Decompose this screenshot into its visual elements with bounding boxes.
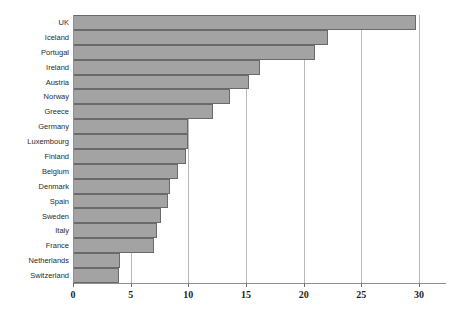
category-label-portugal: Portugal: [0, 48, 69, 57]
category-label-spain: Spain: [0, 197, 69, 206]
category-label-uk: UK: [0, 18, 69, 27]
plot-area: [73, 15, 419, 283]
bar-austria: [73, 75, 249, 90]
category-label-belgium: Belgium: [0, 167, 69, 176]
bar-france: [73, 238, 154, 253]
bar-row: [73, 15, 419, 30]
bar-row: [73, 179, 419, 194]
bar-row: [73, 119, 419, 134]
bar-row: [73, 75, 419, 90]
category-label-germany: Germany: [0, 122, 69, 131]
bar-norway: [73, 89, 230, 104]
x-tick-label-30: 30: [414, 289, 424, 300]
bar-row: [73, 208, 419, 223]
category-axis-labels: UKIcelandPortugalIrelandAustriaNorwayGre…: [0, 15, 69, 283]
bar-row: [73, 253, 419, 268]
tick-mark-25: [361, 283, 362, 287]
category-label-austria: Austria: [0, 78, 69, 87]
category-label-denmark: Denmark: [0, 182, 69, 191]
bar-spain: [73, 194, 168, 209]
x-tick-label-20: 20: [299, 289, 309, 300]
bar-ireland: [73, 60, 260, 75]
x-tick-label-0: 0: [71, 289, 76, 300]
category-label-switzerland: Switzerland: [0, 271, 69, 280]
bar-chart: UKIcelandPortugalIrelandAustriaNorwayGre…: [0, 0, 456, 321]
tick-mark-5: [131, 283, 132, 287]
bar-row: [73, 268, 419, 283]
gridline-30: [419, 15, 420, 283]
category-label-france: France: [0, 241, 69, 250]
bar-portugal: [73, 45, 315, 60]
x-tick-label-25: 25: [356, 289, 366, 300]
bar-row: [73, 60, 419, 75]
category-label-netherlands: Netherlands: [0, 256, 69, 265]
bar-row: [73, 134, 419, 149]
tick-mark-10: [188, 283, 189, 287]
bar-greece: [73, 104, 213, 119]
bar-row: [73, 238, 419, 253]
x-tick-label-5: 5: [128, 289, 133, 300]
bar-belgium: [73, 164, 178, 179]
bar-italy: [73, 223, 157, 238]
bar-row: [73, 194, 419, 209]
tick-mark-30: [419, 283, 420, 287]
x-axis-line: [73, 283, 446, 284]
bar-denmark: [73, 179, 170, 194]
bar-switzerland: [73, 268, 119, 283]
bar-row: [73, 164, 419, 179]
bar-uk: [73, 15, 416, 30]
y-axis-line: [73, 15, 74, 284]
bar-row: [73, 30, 419, 45]
bar-row: [73, 149, 419, 164]
category-label-ireland: Ireland: [0, 63, 69, 72]
x-tick-label-15: 15: [241, 289, 251, 300]
x-tick-label-10: 10: [183, 289, 193, 300]
bar-series: [73, 15, 419, 283]
bar-row: [73, 223, 419, 238]
bar-row: [73, 45, 419, 60]
category-label-greece: Greece: [0, 107, 69, 116]
bar-germany: [73, 119, 188, 134]
tick-mark-15: [246, 283, 247, 287]
bar-row: [73, 89, 419, 104]
bar-sweden: [73, 208, 161, 223]
bar-luxembourg: [73, 134, 188, 149]
category-label-iceland: Iceland: [0, 33, 69, 42]
category-label-sweden: Sweden: [0, 212, 69, 221]
category-label-italy: Italy: [0, 226, 69, 235]
x-axis-tick-labels: 051015202530: [0, 289, 456, 303]
tick-mark-0: [73, 283, 74, 287]
bar-iceland: [73, 30, 328, 45]
category-label-luxembourg: Luxembourg: [0, 137, 69, 146]
bar-netherlands: [73, 253, 120, 268]
category-label-norway: Norway: [0, 92, 69, 101]
figure-bottom-margin: [0, 311, 456, 321]
category-label-finland: Finland: [0, 152, 69, 161]
bar-row: [73, 104, 419, 119]
tick-mark-20: [304, 283, 305, 287]
bar-finland: [73, 149, 186, 164]
